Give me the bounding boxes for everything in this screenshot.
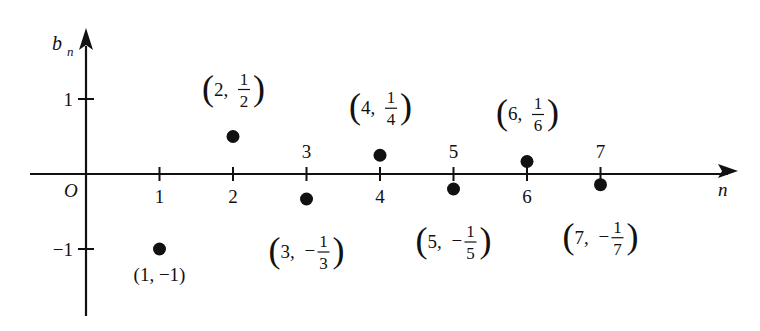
x-tick-label: 2: [228, 186, 238, 207]
open-paren: (: [416, 220, 428, 260]
fraction-numerator: 1: [387, 88, 396, 107]
point-label-n: 7,: [575, 227, 589, 248]
point-label: (2,12): [202, 68, 265, 111]
point-label: (7,−17): [563, 216, 639, 259]
point-label-n: 3,: [281, 241, 295, 262]
fraction-denominator: 2: [240, 92, 249, 111]
fraction-denominator: 5: [466, 244, 475, 263]
minus-sign: −: [452, 230, 463, 251]
fraction-denominator: 6: [534, 116, 543, 135]
y-axis-label-subscript: n: [67, 44, 74, 59]
fraction-denominator: 7: [613, 240, 622, 259]
data-point: [521, 155, 534, 168]
y-axis-label: b: [52, 32, 62, 54]
point-label-n: 4,: [361, 97, 375, 118]
data-point: [227, 130, 240, 143]
point-label: (5,−15): [416, 220, 492, 263]
x-tick-label: 4: [375, 186, 385, 207]
fraction-denominator: 3: [319, 254, 328, 273]
x-axis-label: n: [718, 179, 728, 200]
data-point: [374, 149, 387, 162]
point-label: (6,16): [496, 92, 559, 135]
close-paren: ): [400, 86, 412, 126]
x-tick-label: 3: [302, 141, 312, 162]
close-paren: ): [627, 216, 639, 256]
origin-label: O: [64, 180, 78, 201]
point-label-n: 5,: [428, 231, 442, 252]
point-label-n: 2,: [214, 79, 228, 100]
fraction-denominator: 4: [387, 110, 396, 129]
close-paren: ): [547, 92, 559, 132]
data-point: [153, 243, 166, 256]
fraction-numerator: 1: [534, 94, 543, 113]
y-tick-label: 1: [64, 89, 74, 110]
fraction-numerator: 1: [319, 232, 328, 251]
x-tick-label: 6: [522, 186, 532, 207]
point-label: (1, −1): [134, 264, 186, 286]
data-point: [300, 192, 313, 205]
x-axis-arrow-icon: [718, 164, 738, 178]
x-tick-label: 7: [596, 141, 606, 162]
fraction-numerator: 1: [466, 222, 475, 241]
open-paren: (: [269, 230, 281, 270]
x-tick-label: 5: [449, 141, 459, 162]
minus-sign: −: [305, 240, 316, 261]
open-paren: (: [202, 68, 214, 108]
y-tick-label: −1: [53, 239, 73, 260]
open-paren: (: [349, 86, 361, 126]
fraction-numerator: 1: [240, 70, 249, 89]
point-label-n: 6,: [508, 103, 522, 124]
close-paren: ): [333, 230, 345, 270]
data-point: [594, 178, 607, 191]
minus-sign: −: [599, 226, 610, 247]
point-label: (4,14): [349, 86, 412, 129]
plot-canvas: nbnO12345671−1(1, −1)(2,12)(3,−13)(4,14)…: [0, 0, 760, 331]
close-paren: ): [253, 68, 265, 108]
x-tick-label: 1: [155, 186, 165, 207]
close-paren: ): [480, 220, 492, 260]
sequence-plot: nbnO12345671−1(1, −1)(2,12)(3,−13)(4,14)…: [0, 0, 760, 331]
data-point: [447, 183, 460, 196]
open-paren: (: [563, 216, 575, 256]
point-label: (3,−13): [269, 230, 345, 273]
fraction-numerator: 1: [613, 218, 622, 237]
open-paren: (: [496, 92, 508, 132]
